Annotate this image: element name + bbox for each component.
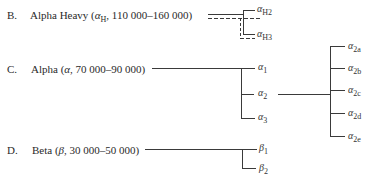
group-letter-d: D. [7, 144, 18, 156]
node-alpha-h3: αH3 [257, 28, 272, 41]
node-alpha-2e: α2e [348, 130, 361, 143]
connector-lines [0, 0, 375, 185]
group-letter-b: B. [7, 9, 17, 21]
group-symbol-sub: H [101, 15, 107, 24]
node-alpha-h2: αH2 [257, 3, 272, 16]
group-range: , 70 000–90 000) [70, 63, 145, 75]
group-name: Beta [32, 144, 52, 156]
group-range: , 30 000–50 000) [64, 144, 139, 156]
node-alpha-1: α1 [258, 61, 267, 74]
group-label-alpha-heavy: Alpha Heavy (αH, 110 000–160 000) [30, 9, 192, 23]
group-name: Alpha Heavy [30, 9, 88, 21]
group-symbol: α [95, 9, 101, 21]
alpha-connectors [152, 46, 345, 137]
node-alpha-2c: α2c [348, 84, 361, 97]
group-letter-c: C. [7, 63, 17, 75]
group-range: , 110 000–160 000) [106, 9, 192, 21]
node-alpha-2b: α2b [348, 62, 361, 75]
alpha-heavy-connectors [208, 10, 262, 39]
node-alpha-2d: α2d [348, 107, 361, 120]
group-name: Alpha [31, 63, 58, 75]
node-alpha-2: α2 [258, 87, 267, 100]
node-beta-1: β1 [259, 142, 268, 155]
group-label-beta: Beta (β, 30 000–50 000) [32, 144, 139, 156]
beta-connectors [145, 149, 257, 169]
node-beta-2: β2 [259, 162, 268, 175]
node-alpha-2a: α2a [348, 40, 361, 53]
node-alpha-3: α3 [258, 111, 267, 124]
group-label-alpha: Alpha (α, 70 000–90 000) [31, 63, 145, 75]
